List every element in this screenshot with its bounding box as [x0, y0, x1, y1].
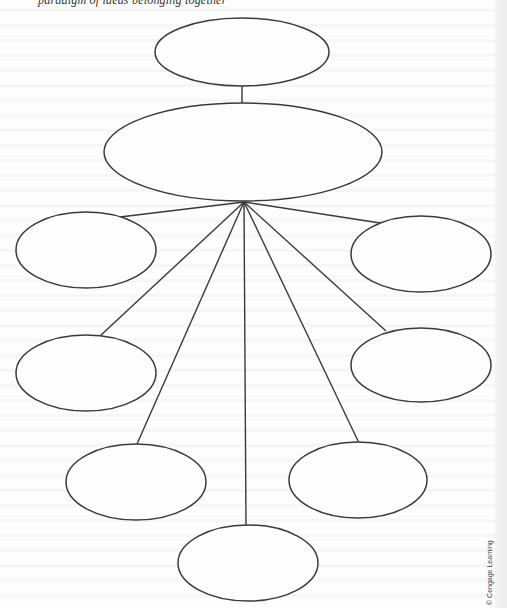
ellipse-node-bottom — [178, 525, 318, 601]
ellipse-node-center — [104, 103, 382, 201]
copyright-credit: © Cengage Learning — [486, 540, 493, 605]
ellipse-node-left-upper — [16, 212, 156, 288]
ellipse-node-right-upper — [351, 216, 491, 292]
ellipse-node-top — [155, 18, 329, 86]
cluster-diagram — [0, 0, 507, 608]
ellipse-nodes — [16, 18, 491, 601]
ellipse-node-left-lower — [66, 444, 206, 520]
connector-center-to-left-upper — [120, 202, 244, 217]
connector-center-to-right-lower — [244, 202, 359, 443]
ellipse-node-left-middle — [16, 335, 156, 411]
connector-center-to-bottom — [244, 202, 246, 525]
ellipse-node-right-middle — [351, 328, 491, 402]
ellipse-node-right-lower — [289, 442, 427, 518]
worksheet-page: paradigm of ideas belonging together © C… — [0, 0, 507, 608]
